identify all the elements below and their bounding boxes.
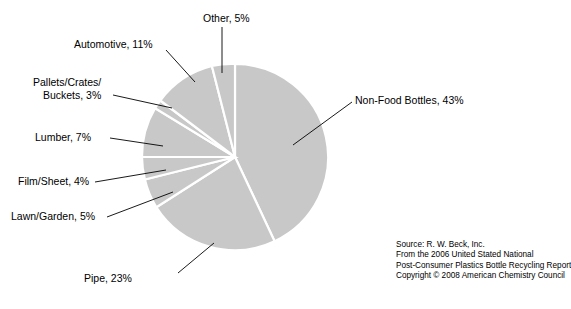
source-note: Source: R. W. Beck, Inc. From the 2006 U…	[396, 240, 571, 282]
leader-line-automotive	[166, 50, 195, 82]
label-automotive: Automotive, 11%	[74, 38, 153, 51]
label-pallets-crates-buckets: Pallets/Crates/ Buckets, 3%	[33, 76, 101, 101]
label-lawn-garden: Lawn/Garden, 5%	[11, 210, 95, 223]
leader-line-pipe	[178, 243, 214, 273]
label-lumber: Lumber, 7%	[35, 131, 91, 144]
label-pipe: Pipe, 23%	[84, 272, 132, 285]
pie-slices	[142, 64, 328, 250]
label-non-food-bottles: Non-Food Bottles, 43%	[355, 94, 464, 107]
label-other: Other, 5%	[203, 12, 250, 25]
label-film-sheet: Film/Sheet, 4%	[18, 175, 89, 188]
